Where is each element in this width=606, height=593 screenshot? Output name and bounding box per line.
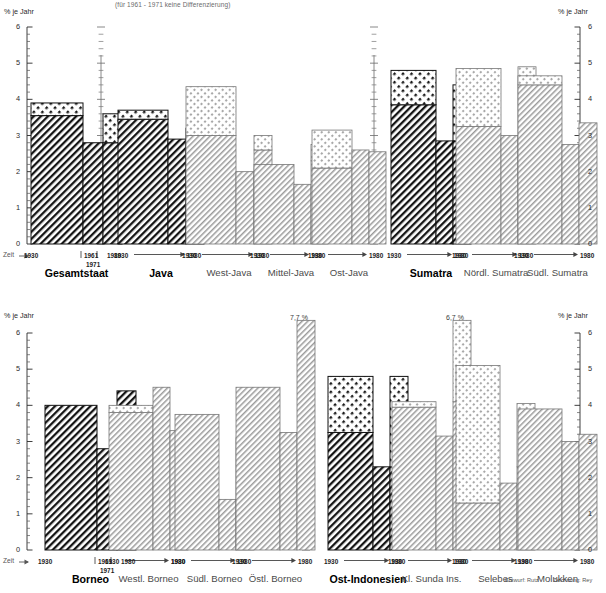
value-annotation-Kl. Sunda Ins.: 6,7 % — [446, 314, 464, 321]
period-arrow-Sumatra — [407, 252, 452, 257]
y-tick-label-right-4: 4 — [588, 95, 592, 102]
year-start-West-Java: 1930 — [182, 253, 196, 259]
period-arrow-Nördl. Sumatra — [472, 252, 517, 257]
y-tick-label-right-0: 0 — [588, 240, 592, 247]
bar-Nördl. Sumatra-p2 — [501, 136, 518, 245]
bar-Sumatra-p2 — [436, 141, 453, 244]
bar-Molukken-p2 — [562, 442, 579, 551]
y-tick-label-left-4: 4 — [16, 95, 20, 102]
period-arrow-Selebes — [472, 558, 516, 563]
bar-Java-p2 — [168, 139, 186, 244]
y-axis-left-row2 — [27, 333, 33, 550]
bar-Molukken-p1 — [518, 409, 562, 550]
y-tick-label-left-5: 5 — [16, 59, 20, 66]
period-arrow-Südl. Sumatra — [534, 252, 578, 257]
y-axis-caption-bottom-right: % je Jahr — [558, 312, 588, 319]
bar-Mittel-Java-p2 — [294, 184, 311, 244]
bar-Molukken-p3 — [579, 434, 597, 550]
period-arrow-Molukken — [534, 558, 578, 563]
header-note: (für 1961 - 1971 keine Differenzierung) — [115, 2, 230, 9]
bar-Westl. Borneo-p2 — [153, 387, 170, 550]
y-tick-label-left-0: 0 — [16, 546, 20, 553]
y-tick-label-left-4: 4 — [16, 401, 20, 408]
y-tick-label-right-3: 3 — [588, 438, 592, 445]
year-start-Mittel-Java: 1930 — [250, 253, 264, 259]
y-tick-label-right-6: 6 — [588, 23, 592, 30]
y-tick-label-right-5: 5 — [588, 365, 592, 372]
bar-Gesamtstaat-p1 — [31, 103, 83, 244]
bar-Südl. Sumatra-p2 — [562, 145, 579, 244]
period-arrow-Kl. Sunda Ins. — [408, 558, 452, 563]
bar-Südl. Borneo-p1 — [175, 414, 219, 550]
year-start-Westl. Borneo: 1930 — [105, 559, 119, 565]
bar-Ost-Java-p3 — [369, 152, 386, 244]
bar-Gesamtstaat-p2 — [83, 143, 103, 244]
y-tick-label-left-2: 2 — [16, 168, 20, 175]
bar-Östl. Borneo-p3 — [297, 320, 315, 550]
y-tick-label-left-6: 6 — [16, 329, 20, 336]
year-end-Molukken: 1980 — [580, 559, 594, 565]
year-start-Molukken: 1930 — [514, 559, 528, 565]
y-axis-caption-top-left: % je Jahr — [4, 8, 34, 15]
bar-Mittel-Java-p1 — [254, 164, 294, 244]
time-axis-label-2: Zeit — [3, 558, 14, 565]
period-arrow-Java — [134, 252, 185, 257]
bar-Südl. Sumatra-p1 — [518, 76, 562, 244]
y-tick-label-left-3: 3 — [16, 438, 20, 445]
y-tick-label-left-6: 6 — [16, 23, 20, 30]
bar-Kl. Sunda Ins.-p2 — [436, 436, 453, 550]
year-start-Selebes: 1930 — [452, 559, 466, 565]
bar-Selebes-p2 — [500, 483, 517, 550]
y-tick-label-right-0: 0 — [588, 546, 592, 553]
year-start-Östl. Borneo: 1930 — [232, 559, 246, 565]
y-tick-label-right-1: 1 — [588, 204, 592, 211]
bar-West-Java-p1 — [186, 87, 236, 244]
y-tick-label-right-4: 4 — [588, 401, 592, 408]
time-axis-label-1: Zeit — [3, 252, 14, 259]
year-start-Ost-Indonesien: 1930 — [324, 559, 338, 565]
y-tick-label-left-1: 1 — [16, 510, 20, 517]
value-annotation-Östl. Borneo: 7,7 % — [290, 314, 308, 321]
time-arrow-2 — [19, 560, 29, 565]
y-tick-label-left-2: 2 — [16, 474, 20, 481]
y-tick-label-right-2: 2 — [588, 474, 592, 481]
year-start-Kl. Sunda Ins.: 1930 — [388, 559, 402, 565]
bar-Südl. Borneo-p2 — [219, 499, 236, 550]
bar-Westl. Borneo-p1 — [109, 405, 153, 550]
year-start-Java: 1930 — [114, 253, 128, 259]
period-arrow-Östl. Borneo — [252, 558, 296, 563]
y-tick-label-right-2: 2 — [588, 168, 592, 175]
bar-Ost-Java-p1 — [312, 130, 352, 244]
bar-Nördl. Sumatra-p1 — [456, 69, 501, 244]
y-tick-label-right-3: 3 — [588, 132, 592, 139]
period-arrow-Südl. Borneo — [191, 558, 235, 563]
bar-West-Java-p2 — [236, 172, 254, 244]
chart-canvas — [0, 0, 606, 593]
y-axis-caption-bottom-left: % je Jahr — [4, 312, 34, 319]
period-arrow-West-Java — [202, 252, 253, 257]
period-arrow-Mittel-Java — [270, 252, 309, 257]
year-end-Östl. Borneo: 1980 — [298, 559, 312, 565]
y-tick-label-right-6: 6 — [588, 329, 592, 336]
year-mid-Gesamtstaat: 1961 — [84, 253, 98, 259]
bar-Selebes-p1 — [456, 366, 500, 550]
group-label-Südl. Sumatra: Südl. Sumatra — [498, 268, 606, 278]
year-start-Südl. Borneo: 1930 — [171, 559, 185, 565]
period-arrow-Ost-Java — [328, 252, 367, 257]
year-start-Ost-Java: 1930 — [308, 253, 322, 259]
year-start-Nördl. Sumatra: 1930 — [452, 253, 466, 259]
bar-Kl. Sunda Ins.-p1 — [392, 402, 436, 550]
year-start-Gesamtstaat: 1930 — [24, 253, 38, 259]
bar-Östl. Borneo-p2 — [280, 432, 297, 550]
bar-Borneo-p1 — [45, 405, 97, 550]
credit-drawing: Zeichnung: Rey — [553, 578, 592, 584]
year-start-Sumatra: 1930 — [387, 253, 401, 259]
year-end-Borneo: 1980 — [121, 559, 135, 565]
bar-Östl. Borneo-p1 — [236, 387, 280, 550]
year-start-Borneo: 1930 — [38, 559, 52, 565]
y-tick-label-left-0: 0 — [16, 240, 20, 247]
year-end-Ost-Java: 1980 — [369, 253, 383, 259]
y-tick-label-left-5: 5 — [16, 365, 20, 372]
year-start-Südl. Sumatra: 1930 — [514, 253, 528, 259]
y-tick-label-left-3: 3 — [16, 132, 20, 139]
